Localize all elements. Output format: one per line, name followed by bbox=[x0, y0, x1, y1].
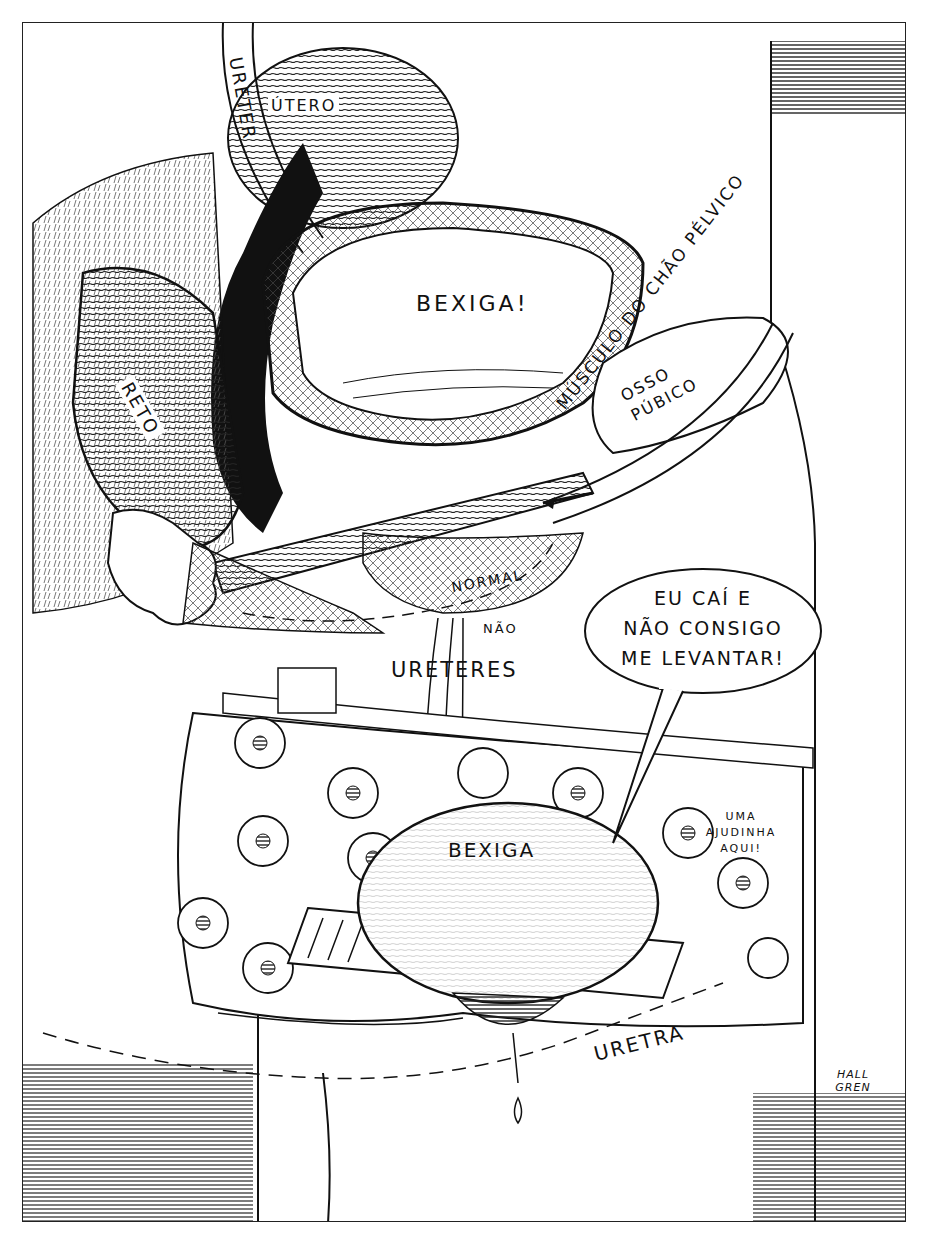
small-speech: UMA AJUDINHA AQUI! bbox=[691, 809, 791, 857]
label-bexiga-bottom: BEXIGA bbox=[448, 838, 535, 862]
label-nao: NÃO bbox=[483, 621, 518, 636]
speech-line: NÃO CONSIGO bbox=[595, 613, 811, 643]
hatch-bottom-left bbox=[23, 1063, 253, 1222]
label-bexiga-top: BEXIGA! bbox=[416, 291, 528, 316]
illustration-frame: URETER ÚTERO BEXIGA! RETO OSSO PÚBICO MÚ… bbox=[22, 22, 906, 1222]
label-ureteres: URETERES bbox=[391, 658, 518, 682]
hatch-top-right bbox=[771, 41, 906, 116]
label-utero: ÚTERO bbox=[268, 96, 339, 115]
speech-line: EU CAÍ E bbox=[595, 583, 811, 613]
speech-line: ME LEVANTAR! bbox=[595, 643, 811, 673]
signature-line: HALL bbox=[823, 1068, 883, 1081]
small-speech-line: UMA bbox=[691, 809, 791, 825]
small-speech-line: AQUI! bbox=[691, 841, 791, 857]
small-speech-line: AJUDINHA bbox=[691, 825, 791, 841]
artist-signature: HALL GREN bbox=[823, 1068, 883, 1094]
hatch-bottom-right bbox=[753, 1093, 906, 1222]
speech-bubble: EU CAÍ E NÃO CONSIGO ME LEVANTAR! bbox=[595, 583, 811, 673]
signature-line: GREN bbox=[823, 1081, 883, 1094]
